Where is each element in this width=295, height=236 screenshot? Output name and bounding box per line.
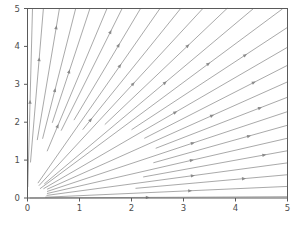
- x-tick-label: 3: [181, 204, 186, 213]
- x-tick-label: 1: [77, 204, 82, 213]
- figure: 012345 012345: [0, 0, 295, 236]
- streamline: [46, 186, 288, 197]
- x-tick-label: 0: [25, 204, 30, 213]
- streamline: [31, 9, 44, 163]
- streamline-group: [28, 9, 288, 198]
- streamline-arrowhead: [188, 189, 192, 192]
- streamline: [44, 47, 288, 188]
- streamline: [132, 28, 287, 130]
- y-tick-label: 3: [8, 80, 20, 89]
- streamline-arrowhead: [243, 54, 247, 58]
- streamline: [28, 9, 33, 187]
- streamline: [40, 9, 282, 188]
- x-tick-label: 5: [285, 204, 290, 213]
- arrowhead-group: [28, 25, 266, 199]
- streamline-arrowhead: [191, 174, 195, 177]
- streamline-arrowhead: [54, 25, 57, 29]
- streamline-arrowhead: [258, 107, 262, 110]
- streamline: [43, 9, 76, 139]
- streamline-arrowhead: [28, 100, 31, 104]
- streamline-arrowhead: [67, 69, 70, 73]
- streamline-arrowhead: [262, 154, 266, 157]
- streamline: [154, 125, 288, 162]
- y-tick-label: 0: [8, 194, 20, 203]
- streamline-arrowhead: [190, 142, 194, 145]
- streamline-arrowhead: [247, 135, 251, 138]
- x-axis-tick-marks: [28, 198, 288, 202]
- x-tick-label: 4: [233, 204, 238, 213]
- streamline: [145, 65, 288, 138]
- y-tick-label: 1: [8, 156, 20, 165]
- streamline-arrowhead: [55, 124, 58, 128]
- streamline: [39, 9, 203, 186]
- streamline: [61, 9, 122, 131]
- streamline: [136, 175, 288, 189]
- y-tick-label: 5: [8, 4, 20, 13]
- streamline-arrowhead: [117, 64, 121, 68]
- x-tick-label: 2: [129, 204, 134, 213]
- streamline-arrowhead: [146, 196, 150, 199]
- streamline: [83, 9, 181, 130]
- y-tick-label: 2: [8, 118, 20, 127]
- streamplot-canvas: [0, 0, 295, 236]
- y-tick-label: 4: [8, 42, 20, 51]
- y-axis-tick-marks: [24, 9, 28, 199]
